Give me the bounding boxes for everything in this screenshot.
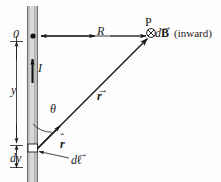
dl-leader-line xyxy=(39,152,69,159)
r-hat-label: ˆr xyxy=(60,138,65,150)
r-vector-label: →r xyxy=(97,90,102,102)
wire-highlight xyxy=(30,6,34,182)
dl-vector-accent: → xyxy=(77,148,82,159)
dl-label: d→ℓ xyxy=(71,154,82,166)
point-P-label: P xyxy=(145,16,152,28)
origin-label: 0 xyxy=(13,28,19,40)
r-hat-accent: ˆ xyxy=(60,132,65,143)
distance-R-label: R xyxy=(97,25,104,37)
r-hat-symbol: ˆr xyxy=(60,138,65,150)
dB-vector-symbol: →B xyxy=(161,27,169,39)
physics-diagram-figure: 0 R P d→B (inward) I y θ →r ˆr d→ℓ dy xyxy=(0,0,221,182)
r-vector-accent: → xyxy=(97,84,102,95)
dB-vector-accent: → xyxy=(161,21,169,32)
angle-theta-label: θ xyxy=(50,103,56,115)
dB-label: d→B xyxy=(155,27,169,39)
dB-inward-note: (inward) xyxy=(174,28,212,39)
dl-vector-symbol: →ℓ xyxy=(77,154,82,166)
current-I-label: I xyxy=(38,62,42,74)
dl-element-box xyxy=(28,144,38,152)
origin-point-marker xyxy=(30,33,35,38)
r-vector-symbol: →r xyxy=(97,90,102,102)
wire-group xyxy=(27,6,38,182)
height-y-label: y xyxy=(11,84,16,96)
element-dy-label: dy xyxy=(10,152,21,164)
